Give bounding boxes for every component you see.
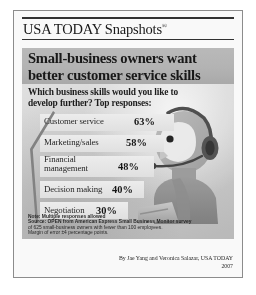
response-label-3-line2: management xyxy=(44,164,88,173)
response-value-4: 40% xyxy=(112,184,133,195)
headset-earpiece-inner xyxy=(205,141,214,156)
footnote-source-line-1: Source: OPEN from American Express Small… xyxy=(28,219,203,225)
headline-banner: Small-business owners want better custom… xyxy=(22,48,234,84)
masthead-rule-bottom xyxy=(22,39,234,40)
byline-credit: By Jae Yang and Veronica Salazar, USA TO… xyxy=(119,255,233,262)
response-label-1: Customer service xyxy=(44,117,104,126)
headline-line-2: better customer service skills xyxy=(28,67,234,84)
byline: By Jae Yang and Veronica Salazar, USA TO… xyxy=(119,255,233,270)
response-value-2: 58% xyxy=(126,137,147,148)
response-label-4: Decision making xyxy=(44,185,102,194)
usa-today-snapshot-figure: USA TODAY Snapshots® Small-business owne… xyxy=(13,10,243,278)
footnote-margin-of-error: Margin of error ±4 percentage points. xyxy=(28,230,203,236)
response-row-3: Financial management 48% xyxy=(30,153,180,178)
response-value-1: 63% xyxy=(134,116,155,127)
footnotes: Note: Multiple responses allowed Source:… xyxy=(28,214,203,236)
response-label-2: Marketing/sales xyxy=(44,138,99,147)
response-row-4: Decision making 40% xyxy=(30,178,180,199)
response-row-2: Marketing/sales 58% xyxy=(30,132,180,153)
registered-trademark-icon: ® xyxy=(162,22,167,30)
byline-year: 2007 xyxy=(119,263,233,270)
headline-line-1: Small-business owners want xyxy=(28,50,234,67)
response-value-3: 48% xyxy=(118,161,139,172)
response-list: Customer service 63% Marketing/sales 58%… xyxy=(30,111,180,220)
chart-panel: Which business skills would you like to … xyxy=(22,84,234,239)
masthead-title: USA TODAY Snapshots® xyxy=(22,19,234,39)
masthead: USA TODAY Snapshots® xyxy=(22,17,234,40)
response-row-1: Customer service 63% xyxy=(30,111,180,132)
masthead-brand-text: USA TODAY Snapshots xyxy=(23,21,162,37)
